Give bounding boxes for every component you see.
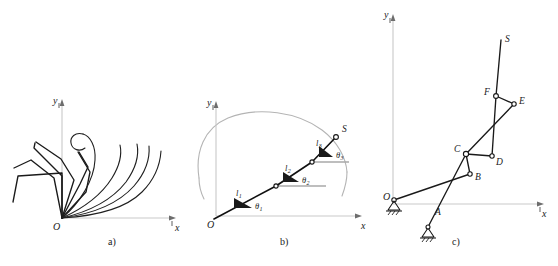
panel-b-y-axis-label: y (206, 97, 212, 108)
panel-c-joint-label-b: B (475, 172, 481, 182)
panel-c-ground-hatch-l1 (388, 211, 391, 215)
panel-b-x-axis-label: x (360, 220, 366, 231)
panel-c-ground-support-lower (420, 225, 436, 242)
panel-c-member-c-d (466, 154, 492, 156)
panel-c-joint-ground-lower (426, 225, 430, 229)
panel-b-joint-1 (274, 184, 278, 188)
panel-c-joint-e (512, 102, 516, 106)
panel-b-x-axis-arrowhead (355, 214, 362, 219)
panel-a-y-axis-arrowhead (60, 99, 65, 106)
panel-c-joint-label-s: S (505, 34, 510, 44)
panel-c-ground-support-left (386, 201, 402, 215)
panel-b-envelope-left-tail (199, 178, 204, 199)
panel-b-joint-2 (310, 160, 314, 164)
panel-a-x-axis-arrowhead (169, 216, 176, 221)
panel-a-linkage-set (13, 134, 161, 218)
panel-c-ground-hatch-b1 (422, 238, 425, 242)
panel-b-envelope-upper (198, 112, 347, 178)
panel-b-envelope-lower (342, 172, 347, 196)
panel-b-link-3-length-label: l3 (316, 138, 322, 149)
panel-c-joint-label-f: F (483, 87, 490, 97)
panel-a-posture-3 (34, 143, 62, 218)
panel-a-posture-8 (62, 145, 121, 218)
panel-c-origin-label: O (383, 191, 390, 202)
panel-b-angle-wedge-2 (283, 172, 299, 182)
panel-c-member-f-s (496, 40, 501, 96)
panel-b: O x y S l1 l2 l3 θ1 θ2 θ3 (186, 0, 380, 266)
panel-c-joint-label-a: A (434, 207, 441, 217)
panel-b-angle-2-label: θ2 (302, 175, 310, 186)
panel-c: O x y A B C D E F S (380, 0, 558, 266)
panel-b-link-2-length-label: l2 (285, 163, 291, 174)
panel-c-x-axis-label: x (541, 208, 547, 219)
panel-b-linkage (214, 137, 336, 219)
panel-c-member-f-e (496, 96, 514, 104)
panel-c-ground-hatch-l2 (392, 211, 395, 215)
panel-a-x-axis-label: x (174, 222, 180, 233)
panel-c-member-c-e (466, 104, 514, 154)
panel-a-posture-7-loop (71, 134, 85, 150)
panel-a-posture-11 (62, 151, 161, 218)
panel-c-joint-d (490, 154, 494, 158)
caption-panel-a: a) (108, 236, 116, 247)
panel-b-link-1-length-label: l1 (236, 188, 242, 199)
panel-a-posture-10 (62, 146, 149, 218)
panel-b-angle-1-label: θ1 (255, 201, 263, 212)
panel-a-y-axis-label: y (52, 95, 58, 106)
panel-c-ground-hatch-b3 (430, 238, 433, 242)
panel-b-link-1 (214, 186, 276, 219)
panel-c-ground-hatch-l3 (396, 211, 399, 215)
panel-c-joint-b (468, 172, 472, 176)
panel-c-x-axis-arrowhead (537, 202, 544, 207)
panel-a-origin-label: O (53, 221, 60, 232)
panel-c-axes (390, 14, 544, 212)
panel-c-joint-f (494, 94, 499, 99)
panel-c-y-axis-arrowhead (391, 14, 396, 21)
panel-b-angle-3-label: θ3 (336, 150, 344, 161)
caption-panel-b: b) (280, 236, 288, 247)
panel-a-posture-6 (62, 152, 90, 218)
panel-c-member-a-c (428, 154, 466, 227)
panel-c-joint-label-c: C (454, 144, 461, 154)
panel-c-member-o-b (394, 174, 470, 200)
panel-c-ground-hatch-b2 (426, 238, 429, 242)
panel-c-joint-label-e: E (518, 96, 525, 106)
panel-c-joint-c (463, 151, 468, 156)
panel-b-joint-tip-s (334, 135, 339, 140)
panel-b-tip-label-s: S (342, 124, 347, 134)
panel-a-posture-7 (62, 134, 95, 218)
caption-panel-c: c) (452, 236, 460, 247)
panel-a: O x y (0, 0, 186, 266)
figure-root: O x y (0, 0, 558, 266)
panel-b-y-axis-arrowhead (214, 101, 219, 108)
panel-c-linkage (394, 40, 514, 227)
panel-c-y-axis-label: y (383, 9, 389, 20)
panel-c-joint-label-d: D (495, 157, 503, 167)
panel-b-origin-label: O (207, 219, 214, 230)
